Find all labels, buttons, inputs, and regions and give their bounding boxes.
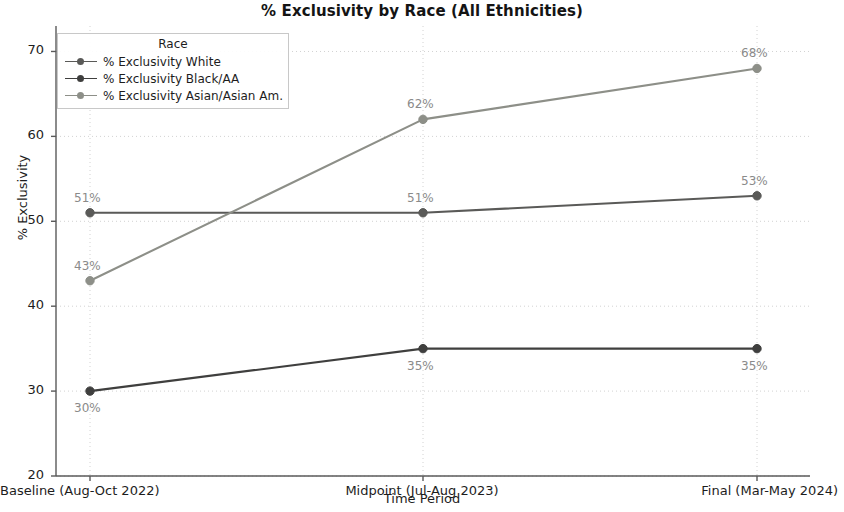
legend-entries: % Exclusivity White% Exclusivity Black/A…: [64, 53, 282, 104]
axis-tick-marks: [51, 51, 757, 481]
data-point-label: 30%: [74, 401, 101, 415]
legend-entry-1[interactable]: % Exclusivity White: [64, 53, 282, 70]
data-point-label: 51%: [407, 191, 434, 205]
legend-label: % Exclusivity White: [103, 55, 221, 69]
legend: Race % Exclusivity White% Exclusivity Bl…: [57, 33, 289, 109]
legend-marker-icon: [64, 55, 98, 69]
legend-entry-3[interactable]: % Exclusivity Asian/Asian Am.: [64, 87, 282, 104]
legend-marker-icon: [64, 72, 98, 86]
x-tick-label: Final (Mar-May 2024): [701, 483, 838, 498]
data-point-label: 51%: [74, 191, 101, 205]
data-point-label: 35%: [407, 359, 434, 373]
y-tick-label: 50: [4, 212, 44, 227]
y-axis-label: % Exclusivity: [15, 128, 30, 268]
data-point-label: 53%: [741, 174, 768, 188]
y-tick-label: 70: [4, 42, 44, 57]
y-tick-label: 60: [4, 127, 44, 142]
legend-label: % Exclusivity Asian/Asian Am.: [103, 89, 283, 103]
y-tick-label: 30: [4, 382, 44, 397]
legend-entry-2[interactable]: % Exclusivity Black/AA: [64, 70, 282, 87]
data-point-label: 68%: [741, 46, 768, 60]
legend-marker-icon: [64, 89, 98, 103]
data-point-label: 35%: [741, 359, 768, 373]
y-tick-label: 40: [4, 297, 44, 312]
series-layer: [86, 64, 761, 395]
data-point-label: 62%: [407, 97, 434, 111]
chart-container: % Exclusivity by Race (All Ethnicities) …: [0, 0, 844, 512]
legend-title: Race: [64, 37, 282, 51]
legend-label: % Exclusivity Black/AA: [103, 72, 239, 86]
y-tick-label: 20: [4, 467, 44, 482]
data-point-label: 43%: [74, 259, 101, 273]
